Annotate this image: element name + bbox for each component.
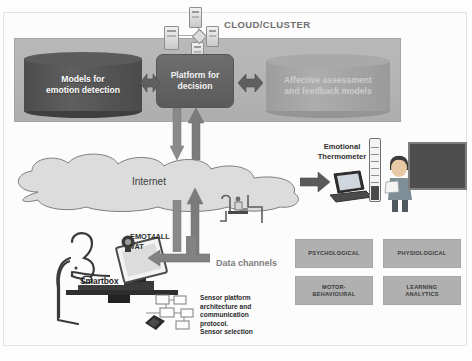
category-box-physiological: PHYSIOLOGICAL: [383, 239, 461, 268]
store-label-line1: Models for: [24, 74, 142, 85]
arrow-left-to-vat-icon: [148, 250, 210, 270]
cloud-cluster-label: CLOUD/CLUSTER: [224, 19, 310, 30]
internet-label: Internet: [132, 176, 166, 187]
bidirectional-arrow-right-icon: [238, 70, 263, 96]
server-cluster-icon: [163, 4, 235, 60]
workstation-router-icon: [218, 193, 260, 219]
thermometer-label-line1: Emotional: [316, 142, 368, 152]
blackboard-icon: [408, 142, 467, 190]
platform-label: Platform for decision: [171, 70, 220, 92]
thermometer-bulb: [371, 186, 379, 200]
diagram-canvas: CLOUD/CLUSTER Models for emotion detecti…: [0, 0, 472, 361]
thermometer-icon: [369, 138, 381, 202]
category-label: MOTOR- BEHAVIOURAL: [313, 284, 356, 298]
affective-assessment-store: Affective assessment and feedback models: [266, 54, 390, 118]
sensor-text-line4: protocol.: [200, 320, 286, 329]
platform-label-line2: decision: [171, 81, 220, 92]
store-label: Models for emotion detection: [24, 74, 142, 96]
platform-for-decision-box: Platform for decision: [156, 54, 234, 108]
category-label-line2: BEHAVIOURAL: [313, 291, 356, 297]
store-label-line2: and feedback models: [266, 86, 390, 97]
sensor-chip-icon: [143, 314, 165, 330]
category-label-line2: ANALYTICS: [405, 291, 438, 297]
category-box-motor-behavioural: MOTOR- BEHAVIOURAL: [295, 276, 373, 305]
arrow-right-icon: [300, 172, 330, 196]
data-channel-categories: PSYCHOLOGICAL PHYSIOLOGICAL MOTOR- BEHAV…: [295, 239, 461, 305]
category-label: LEARNING ANALYTICS: [405, 284, 438, 298]
sensor-platform-text: Sensor platform architecture and communi…: [200, 294, 286, 337]
category-label-line1: LEARNING: [407, 284, 438, 290]
vat-label-line1: EMOT4ALL: [130, 232, 180, 242]
category-box-psychological: PSYCHOLOGICAL: [295, 239, 373, 268]
emot4all-vat-label: EMOT4ALL VAT: [130, 232, 180, 252]
store-label-line2: emotion detection: [24, 85, 142, 96]
sensor-text-line1: Sensor platform: [200, 294, 286, 303]
cylinder-top: [266, 54, 390, 68]
sensor-text-line5: Sensor selection: [200, 328, 286, 337]
data-channels-label: Data channels: [216, 258, 277, 268]
laptop-icon: [328, 170, 368, 202]
category-label: PSYCHOLOGICAL: [308, 250, 359, 257]
store-label-line1: Affective assessment: [266, 75, 390, 86]
category-label: PHYSIOLOGICAL: [398, 250, 447, 257]
sensor-text-line2: architecture and: [200, 303, 286, 312]
platform-label-line1: Platform for: [171, 70, 220, 81]
store-label: Affective assessment and feedback models: [266, 75, 390, 97]
bidirectional-arrow-left-icon: [140, 70, 160, 96]
thermometer-label-line2: Thermometer: [316, 152, 368, 162]
cylinder-top: [24, 52, 142, 66]
emotional-thermometer-label: Emotional Thermometer: [316, 142, 368, 162]
smartbox-label: Smartbox: [80, 276, 119, 286]
sensor-text-line3: communication: [200, 311, 286, 320]
category-box-learning-analytics: LEARNING ANALYTICS: [383, 276, 461, 305]
category-label-line1: MOTOR-: [322, 284, 346, 290]
models-for-emotion-detection-store: Models for emotion detection: [24, 52, 142, 118]
vertical-connector-icon: [186, 236, 196, 262]
